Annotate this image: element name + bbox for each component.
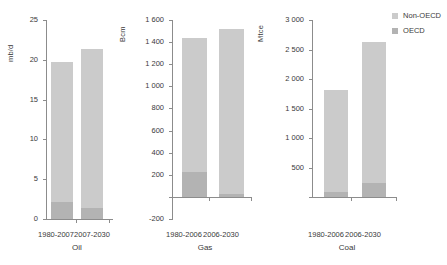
y-tick-label-coal: 500 xyxy=(291,164,304,172)
y-tick-label-gas: 1 000 xyxy=(145,83,164,91)
x-tick-coal xyxy=(351,197,352,201)
bar-segment-non-oecd xyxy=(51,62,73,201)
plot-area-gas: -200 200 400 600 800 1 000 1 200 1 400 1… xyxy=(172,20,252,219)
y-axis-oil xyxy=(46,20,47,219)
y-tick-label-gas: 600 xyxy=(151,127,164,135)
axis-title-oil: mb/d xyxy=(6,45,15,62)
group-label-oil: Oil xyxy=(44,243,110,252)
y-tick-oil: 25 xyxy=(43,20,47,21)
y-tick-gas: -200 xyxy=(169,219,173,220)
y-tick-oil: 10 xyxy=(43,139,47,140)
bar-segment-non-oecd xyxy=(324,90,348,192)
x-axis-coal xyxy=(312,197,397,198)
bar-segment-non-oecd xyxy=(182,38,207,172)
y-tick-label-oil: 0 xyxy=(34,215,38,223)
bar-segment-non-oecd xyxy=(362,42,386,183)
y-tick-label-coal: 2 500 xyxy=(285,46,304,54)
plot-area-oil: 0 5 10 15 20 25 xyxy=(46,20,110,219)
legend-item-oecd[interactable]: OECD xyxy=(392,27,441,35)
y-tick-label-gas: 1 400 xyxy=(145,38,164,46)
group-label-coal: Coal xyxy=(314,243,380,252)
legend-swatch-icon xyxy=(392,13,398,19)
axis-connector xyxy=(110,219,113,220)
x-axis-gas xyxy=(172,197,252,198)
bar-segment-non-oecd xyxy=(219,29,244,194)
bar-coal-2006-2030[interactable] xyxy=(362,42,386,197)
x-axis-oil xyxy=(46,219,110,220)
y-tick-oil: 15 xyxy=(43,100,47,101)
legend-swatch-icon xyxy=(392,28,398,34)
y-tick-label-gas: 1 200 xyxy=(145,60,164,68)
plot-area-coal: 500 1 000 1 500 2 000 2 500 3 000 xyxy=(312,20,397,197)
bar-segment-oecd xyxy=(362,183,386,197)
y-tick-label-gas: 800 xyxy=(151,105,164,113)
y-tick-label-oil: 20 xyxy=(30,56,38,64)
y-tick-gas: 1 000 xyxy=(169,86,173,87)
legend-label-oecd: OECD xyxy=(403,27,425,35)
y-tick-label-oil: 25 xyxy=(30,16,38,24)
y-tick-oil: 5 xyxy=(43,179,47,180)
y-tick-label-gas: 1 600 xyxy=(145,16,164,24)
bar-segment-oecd xyxy=(81,208,103,219)
y-tick-coal: 2 500 xyxy=(309,50,313,51)
x-tick-oil xyxy=(76,219,77,223)
bar-gas-1980-2006[interactable] xyxy=(182,38,207,197)
legend: Non-OECD OECD xyxy=(392,12,441,42)
y-axis-gas xyxy=(172,20,173,219)
group-label-gas: Gas xyxy=(172,243,238,252)
y-tick-label-coal: 2 000 xyxy=(285,75,304,83)
y-tick-label-coal: 3 000 xyxy=(285,16,304,24)
bar-coal-1980-2006[interactable] xyxy=(324,90,348,197)
bar-segment-non-oecd xyxy=(81,49,103,208)
bar-gas-2006-2030[interactable] xyxy=(219,29,244,197)
y-tick-label-gas: 200 xyxy=(151,171,164,179)
y-tick-label-gas: 400 xyxy=(151,149,164,157)
bar-oil-1980-2007[interactable] xyxy=(51,62,73,219)
x-tick-coal xyxy=(396,197,397,201)
y-tick-gas: 1 400 xyxy=(169,42,173,43)
axis-title-gas: Bcm xyxy=(118,26,127,42)
y-tick-gas: 400 xyxy=(169,153,173,154)
x-tick-gas xyxy=(209,197,210,201)
y-tick-coal: 1 500 xyxy=(309,109,313,110)
axis-title-coal: Mtce xyxy=(256,25,265,42)
y-tick-gas: 1 200 xyxy=(169,64,173,65)
y-tick-gas: 1 600 xyxy=(169,20,173,21)
y-tick-label-gas: -200 xyxy=(149,215,164,223)
x-label-gas-2: 2006-2030 xyxy=(191,230,251,239)
bar-oil-2007-2030[interactable] xyxy=(81,49,103,219)
y-tick-oil: 20 xyxy=(43,60,47,61)
y-tick-coal: 3 000 xyxy=(309,20,313,21)
chart-figure: mb/d 0 5 10 15 20 25 xyxy=(0,0,447,265)
x-label-coal-2: 2006-2030 xyxy=(333,230,393,239)
y-tick-label-oil: 10 xyxy=(30,136,38,144)
y-tick-coal: 1 000 xyxy=(309,138,313,139)
y-tick-label-oil: 15 xyxy=(30,96,38,104)
y-tick-label-oil: 5 xyxy=(34,175,38,183)
panel-oil: mb/d 0 5 10 15 20 25 xyxy=(0,0,115,265)
panel-coal: Mtce 500 1 000 1 500 2 000 2 500 3 000 xyxy=(252,0,402,265)
y-tick-label-coal: 1 000 xyxy=(285,134,304,142)
y-tick-label-coal: 1 500 xyxy=(285,105,304,113)
panel-gas: Bcm -200 200 400 600 800 1 000 1 200 1 4… xyxy=(112,0,262,265)
legend-item-non-oecd[interactable]: Non-OECD xyxy=(392,12,441,20)
bar-segment-oecd xyxy=(182,172,207,197)
y-tick-coal: 2 000 xyxy=(309,79,313,80)
y-tick-gas: 600 xyxy=(169,131,173,132)
y-tick-gas: 800 xyxy=(169,108,173,109)
y-tick-coal: 500 xyxy=(309,168,313,169)
y-tick-gas: 200 xyxy=(169,175,173,176)
bar-segment-oecd xyxy=(51,202,73,220)
legend-label-non-oecd: Non-OECD xyxy=(403,12,441,20)
